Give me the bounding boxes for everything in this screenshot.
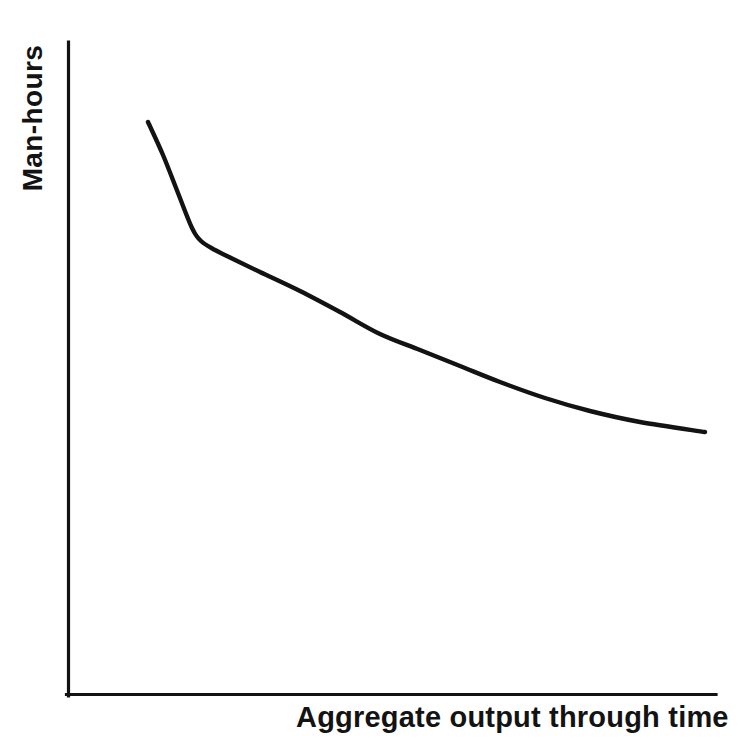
learning-curve-figure: Man-hours Aggregate output through time <box>0 0 755 755</box>
chart-background <box>0 0 755 755</box>
chart-canvas <box>0 0 755 755</box>
